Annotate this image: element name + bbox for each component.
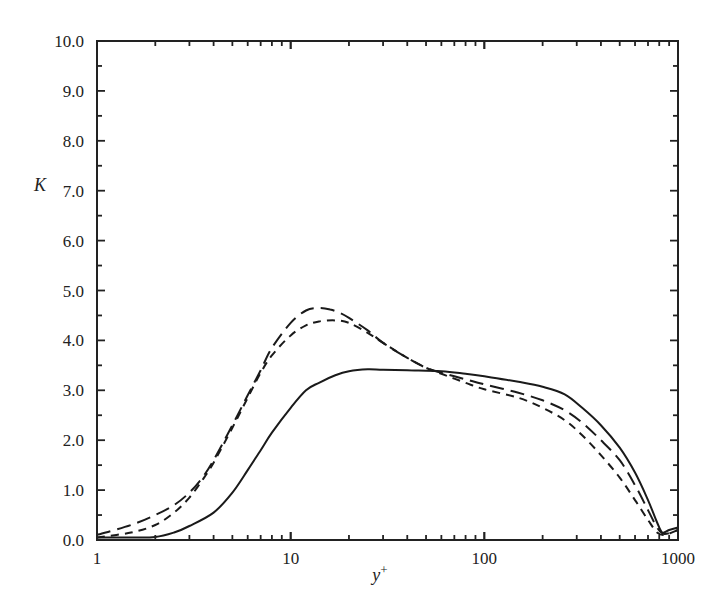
plot-frame (97, 41, 678, 540)
series-layer (97, 308, 678, 538)
x-tick-label: 1 (93, 549, 102, 568)
y-tick-label: 2.0 (63, 431, 84, 450)
ticks-layer (97, 41, 678, 540)
y-tick-label: 3.0 (63, 381, 84, 400)
y-tick-label: 7.0 (63, 182, 84, 201)
x-axis-label: y+ (370, 562, 387, 585)
x-tick-label: 100 (472, 549, 498, 568)
y-tick-label: 10.0 (54, 32, 84, 51)
series-line-long-dash (97, 308, 678, 535)
y-tick-label: 4.0 (63, 331, 84, 350)
y-tick-label: 5.0 (63, 282, 84, 301)
x-tick-labels: 1101001000 (93, 549, 695, 568)
x-tick-label: 10 (282, 549, 299, 568)
y-axis-label: K (33, 175, 47, 195)
y-tick-label: 8.0 (63, 132, 84, 151)
y-tick-label: 1.0 (63, 481, 84, 500)
series-line-solid (97, 369, 678, 537)
y-tick-label: 6.0 (63, 232, 84, 251)
y-tick-labels: 0.01.02.03.04.05.06.07.08.09.010.0 (54, 32, 84, 550)
y-tick-label: 0.0 (63, 531, 84, 550)
series-line-short-dash (97, 320, 678, 537)
y-tick-label: 9.0 (63, 82, 84, 101)
line-chart: 0.01.02.03.04.05.06.07.08.09.010.0 11010… (0, 0, 725, 597)
x-tick-label: 1000 (661, 549, 695, 568)
